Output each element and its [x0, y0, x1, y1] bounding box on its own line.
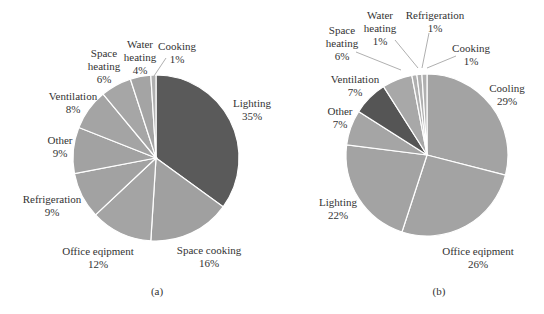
slice-label-lighting: Lighting22%: [319, 196, 357, 222]
slice-label-name: heating: [326, 37, 358, 50]
slice-label-percent: 1%: [452, 55, 490, 68]
slice-label-percent: 1%: [364, 35, 396, 48]
slice-label-name: Lighting: [233, 97, 271, 110]
slice-label-water-heating: Waterheating1%: [364, 9, 396, 48]
slice-label-cooking: Cooking1%: [158, 40, 196, 66]
slice-label-percent: 7%: [331, 86, 379, 99]
slice-label-percent: 4%: [124, 64, 156, 77]
slice-label-percent: 7%: [327, 118, 352, 131]
slice-label-percent: 26%: [442, 258, 514, 271]
slice-label-name: Other: [327, 105, 352, 118]
slice-label-name: Space: [326, 24, 358, 37]
slice-label-cooling: Cooling29%: [489, 82, 524, 108]
slice-label-other: Other7%: [327, 105, 352, 131]
slice-label-percent: 1%: [158, 53, 196, 66]
slice-label-office-eqipment: Office eqipment26%: [442, 245, 514, 271]
slice-label-name: Cooking: [158, 40, 196, 53]
slice-label-name: Space: [88, 47, 120, 60]
slice-label-space-heating: Spaceheating6%: [326, 24, 358, 63]
slice-label-name: Office eqipment: [442, 245, 514, 258]
slice-label-lighting: Lighting35%: [233, 97, 271, 123]
slice-label-name: heating: [364, 22, 396, 35]
slice-label-percent: 9%: [47, 147, 72, 160]
leader-line-refrigeration: [422, 33, 429, 68]
slice-label-percent: 35%: [233, 110, 271, 123]
slice-label-percent: 29%: [489, 95, 524, 108]
slice-label-name: heating: [124, 51, 156, 64]
slice-label-name: Ventilation: [49, 90, 97, 103]
slice-label-name: Other: [47, 134, 72, 147]
slice-label-other: Other9%: [47, 134, 72, 160]
slice-label-name: Water: [364, 9, 396, 22]
slice-label-water-heating: Waterheating4%: [124, 38, 156, 77]
slice-label-name: Cooking: [452, 42, 490, 55]
slice-label-name: Lighting: [319, 196, 357, 209]
slice-label-ventilation: Ventilation7%: [331, 73, 379, 99]
slice-label-percent: 6%: [326, 50, 358, 63]
caption-b: (b): [433, 285, 446, 297]
slice-label-refrigeration: Refrigeration1%: [406, 9, 465, 35]
slice-label-percent: 9%: [23, 206, 82, 219]
slice-label-space-cooking: Space cooking16%: [177, 244, 241, 270]
slice-label-space-heating: Spaceheating6%: [88, 47, 120, 86]
slice-label-cooking: Cooking1%: [452, 42, 490, 68]
slice-label-name: Ventilation: [331, 73, 379, 86]
slice-label-percent: 8%: [49, 103, 97, 116]
slice-label-refrigeration: Refrigeration9%: [23, 193, 82, 219]
slice-label-percent: 16%: [177, 257, 241, 270]
slice-label-name: heating: [88, 60, 120, 73]
slice-label-name: Water: [124, 38, 156, 51]
slice-label-name: Cooling: [489, 82, 524, 95]
caption-a: (a): [151, 285, 163, 297]
slice-label-office-eqipment: Office eqipment12%: [62, 245, 134, 271]
leader-line-space-heating: [356, 52, 401, 70]
slice-label-percent: 22%: [319, 209, 357, 222]
slice-label-name: Refrigeration: [406, 9, 465, 22]
figure: Lighting35%Space cooking16%Office eqipme…: [0, 0, 544, 314]
slice-label-name: Office eqipment: [62, 245, 134, 258]
slice-label-percent: 6%: [88, 73, 120, 86]
slice-label-name: Space cooking: [177, 244, 241, 257]
slice-label-ventilation: Ventilation8%: [49, 90, 97, 116]
slice-label-name: Refrigeration: [23, 193, 82, 206]
slice-label-percent: 12%: [62, 258, 134, 271]
leader-line-water-heating: [395, 40, 418, 68]
slice-label-percent: 1%: [406, 22, 465, 35]
